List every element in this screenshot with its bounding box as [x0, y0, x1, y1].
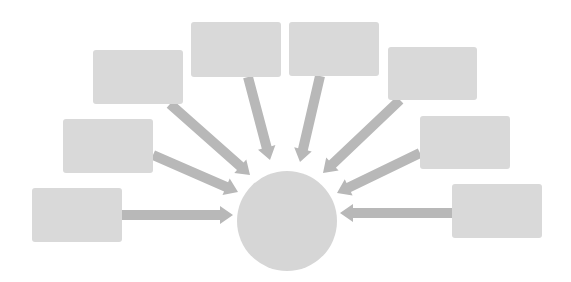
source-box-2	[63, 119, 153, 173]
source-box-4	[191, 22, 281, 77]
arrow-box-4-to-hub	[243, 76, 275, 160]
source-box-6	[388, 47, 477, 100]
source-box-5	[289, 22, 379, 76]
hub-spoke-diagram	[0, 0, 571, 282]
arrow-box-1-to-hub	[122, 206, 233, 224]
source-box-3	[93, 50, 183, 104]
arrow-box-8-to-hub	[340, 204, 452, 222]
arrow-box-7-to-hub	[337, 149, 422, 196]
source-box-1	[32, 188, 122, 242]
central-hub-circle	[237, 171, 337, 271]
arrow-box-5-to-hub	[294, 75, 325, 162]
source-box-7	[420, 116, 510, 169]
source-box-8	[452, 184, 542, 238]
